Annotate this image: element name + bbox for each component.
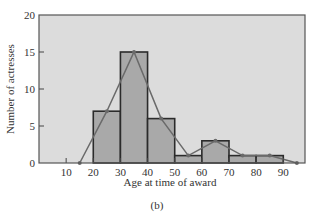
polygon-point [268,154,272,158]
y-tick-label: 10 [24,83,36,95]
y-tick-label: 5 [30,120,36,132]
x-tick-label: 70 [224,166,236,178]
histogram-bar [202,141,229,163]
histogram-bar [120,52,147,163]
polygon-point [105,109,109,113]
polygon-point [159,117,163,121]
polygon-point [186,154,190,158]
histogram-bar [148,119,175,163]
polygon-point [213,139,217,143]
y-tick-label: 0 [30,157,36,169]
figure-caption: (b) [0,199,314,211]
polygon-point [241,154,245,158]
x-tick-label: 80 [251,166,263,178]
x-axis-label: Age at time of award [124,176,217,188]
y-axis-label: Number of actresses [4,44,16,134]
y-tick-label: 20 [24,9,36,21]
histogram-chart: 05101520 102030405060708090 Age at time … [0,0,314,217]
y-tick-label: 15 [24,46,36,58]
x-tick-label: 90 [278,166,290,178]
x-tick-label: 10 [61,166,73,178]
histogram-bar [93,111,120,163]
polygon-point [132,50,136,54]
x-tick-label: 20 [88,166,100,178]
